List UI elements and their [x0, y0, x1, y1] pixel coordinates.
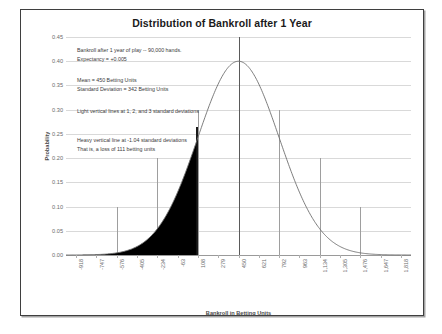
y-tick-label: 0.35: [52, 82, 63, 88]
annotation-line: Mean = 450 Betting Units: [77, 76, 168, 85]
y-tick-label: 0.45: [52, 34, 63, 40]
x-tick-label: 792: [281, 259, 287, 268]
y-tick-label: 0.15: [52, 179, 63, 185]
annotation-line: Light vertical lines at 1, 2, and 3 stan…: [77, 107, 199, 116]
x-tick-mark: [178, 255, 179, 258]
x-tick-label: -63: [180, 259, 186, 267]
annotation-heavy-line: Heavy vertical line at -1.04 standard de…: [77, 136, 187, 153]
chart-container: Distribution of Bankroll after 1 Year Pr…: [20, 9, 424, 316]
annotation-line: Expectancy = +0.005: [77, 55, 182, 64]
x-tick-mark: [340, 255, 341, 258]
x-tick-mark: [157, 255, 158, 258]
annotation-line: Standard Deviation = 342 Betting Units: [77, 85, 168, 94]
x-tick-label: 1,134: [322, 259, 328, 273]
annotation-mean-sd: Mean = 450 Betting UnitsStandard Deviati…: [77, 76, 168, 93]
annotation-line: Bankroll after 1 year of play -- 90,000 …: [77, 46, 182, 55]
y-tick-label: 0.30: [52, 107, 63, 113]
x-tick-mark: [137, 255, 138, 258]
y-axis-title-label: Probability: [44, 132, 50, 161]
x-tick-mark: [360, 255, 361, 258]
x-tick-label: 450: [241, 259, 247, 268]
x-tick-label: 1,818: [403, 259, 409, 273]
y-tick-label: 0.05: [52, 228, 63, 234]
x-tick-label: 1,476: [362, 259, 368, 273]
y-tick-label: 0.40: [52, 58, 63, 64]
x-tick-mark: [96, 255, 97, 258]
annotation-line: That is, a loss of 111 betting units: [77, 145, 187, 154]
x-tick-mark: [117, 255, 118, 258]
x-tick-label: -747: [99, 259, 105, 270]
y-tick-label: 0.00: [52, 252, 63, 258]
x-tick-mark: [320, 255, 321, 258]
x-tick-mark: [218, 255, 219, 258]
annotation-line: Heavy vertical line at -1.04 standard de…: [77, 136, 187, 145]
y-tick-label: 0.20: [52, 155, 63, 161]
x-tick-mark: [259, 255, 260, 258]
y-tick-label: 0.25: [52, 131, 63, 137]
x-tick-label: -576: [119, 259, 125, 270]
x-tick-label: 279: [220, 259, 226, 268]
x-tick-mark: [279, 255, 280, 258]
x-tick-label: 621: [261, 259, 267, 268]
x-tick-mark: [381, 255, 382, 258]
annotation-hands: Bankroll after 1 year of play -- 90,000 …: [77, 46, 182, 63]
annotation-light-lines: Light vertical lines at 1, 2, and 3 stan…: [77, 107, 199, 116]
x-tick-mark: [239, 255, 240, 258]
x-tick-label: -405: [139, 259, 145, 270]
y-axis-title: Probability: [33, 37, 62, 255]
x-tick-mark: [401, 255, 402, 258]
x-tick-label: -918: [78, 259, 84, 270]
x-tick-label: 1,647: [383, 259, 389, 273]
x-tick-mark: [198, 255, 199, 258]
x-tick-label: 1,305: [342, 259, 348, 273]
x-axis-title: Bankroll in Betting Units: [66, 310, 411, 316]
shaded-loss-region: [66, 142, 196, 255]
x-tick-mark: [76, 255, 77, 258]
x-tick-label: 963: [302, 259, 308, 268]
x-tick-label: 108: [200, 259, 206, 268]
chart-title: Distribution of Bankroll after 1 Year: [21, 17, 423, 29]
x-tick-label: -234: [160, 259, 166, 270]
x-tick-mark: [299, 255, 300, 258]
y-tick-label: 0.10: [52, 204, 63, 210]
